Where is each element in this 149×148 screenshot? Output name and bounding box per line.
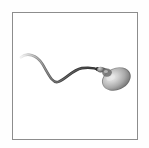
figure-container [0, 0, 149, 148]
figure-frame [12, 12, 138, 140]
tail-flagellum [21, 55, 100, 82]
acrosome-shadow [102, 68, 112, 76]
head [98, 63, 134, 95]
sperm-cell-illustration [13, 13, 137, 139]
